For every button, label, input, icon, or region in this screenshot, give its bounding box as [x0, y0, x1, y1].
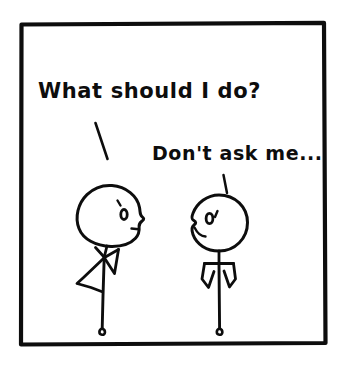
- page-background: [0, 0, 349, 370]
- dialogue-text-1: What should I do?: [38, 79, 261, 103]
- left-figure-mouth: [132, 229, 139, 230]
- right-figure-leg: [219, 264, 220, 329]
- dialogue-line-1: What should I do?: [38, 79, 261, 103]
- left-figure-leg: [102, 258, 104, 329]
- comic-panel-root: What should I do? Don't ask me...: [0, 0, 349, 370]
- dialogue-text-2: Don't ask me...: [152, 142, 323, 164]
- comic-canvas: What should I do? Don't ask me...: [0, 0, 349, 370]
- dialogue-line-2: Don't ask me...: [152, 142, 323, 164]
